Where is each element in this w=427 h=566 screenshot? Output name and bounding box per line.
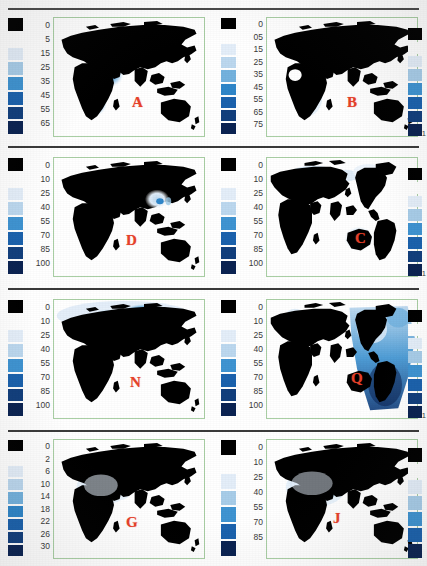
legend-swatches-C (221, 158, 236, 276)
legend-swatch (408, 310, 422, 322)
legend-tick: 70 (254, 228, 263, 242)
edge-legend-tick: 1 (422, 129, 426, 138)
edge-legend-row-1: 1 (408, 28, 426, 138)
legend-swatches-B (221, 18, 236, 136)
legend-tick: 0 (45, 300, 50, 314)
panel-label-A: A (132, 94, 143, 111)
legend-tick: 70 (254, 370, 263, 384)
edge-legend-row-4 (408, 448, 426, 560)
legend-tick: 10 (41, 314, 50, 328)
legend-swatch (221, 70, 236, 81)
row-separator-2 (8, 288, 419, 290)
legend-swatch (408, 97, 422, 109)
legend-tick: 70 (41, 228, 50, 242)
panel-G: 0 2 6 10 14 18 22 26 30 (0, 436, 213, 562)
legend-swatch (221, 217, 236, 230)
legend-swatch (8, 492, 23, 503)
legend-tick: 25 (254, 328, 263, 342)
legend-swatch (8, 545, 23, 556)
legend-swatch (8, 403, 23, 416)
legend-tick: 45 (254, 81, 263, 94)
legend-tick: 100 (36, 398, 50, 412)
legend-swatch (221, 315, 236, 328)
legend-swatch (408, 393, 422, 405)
legend-swatch (8, 389, 23, 402)
panel-label-N: N (130, 374, 141, 391)
legend-swatch (408, 448, 422, 462)
legend-swatch (408, 124, 422, 136)
legend-tick: 05 (254, 31, 263, 44)
legend-swatch (221, 389, 236, 402)
legend-swatch (221, 440, 236, 455)
legend-swatch (221, 110, 236, 121)
legend-tick: 55 (41, 214, 50, 228)
edge-legend-row-2: 1 (408, 168, 426, 278)
legend-tick: 0 (258, 300, 263, 314)
legend-swatch (8, 202, 23, 215)
legend-swatch (408, 528, 422, 542)
legend-tick: 0 (258, 18, 263, 31)
panel-row-3: 0 10 25 40 55 70 85 100 (0, 296, 427, 422)
legend-swatches-D (8, 158, 23, 276)
legend-swatches-G (8, 440, 23, 558)
legend-tick: 75 (254, 118, 263, 131)
legend-tick: 25 (41, 328, 50, 342)
legend-tick: 15 (254, 43, 263, 56)
panel-row-2: 0 10 25 40 55 70 85 100 (0, 154, 427, 280)
panel-label-G: G (126, 514, 138, 531)
map-C: C (266, 157, 418, 277)
legend-swatch (8, 121, 23, 134)
legend-tick: 55 (41, 102, 50, 116)
legend-labels-A: 0 5 15 25 35 45 55 65 (23, 18, 52, 136)
panel-label-Q: Q (351, 370, 363, 387)
legend-labels-D: 0 10 25 40 55 70 85 100 (23, 158, 52, 276)
legend-tick: 0 (258, 440, 263, 455)
legend-tick: 100 (249, 256, 263, 270)
legend-tick: 40 (254, 342, 263, 356)
legend-swatch (8, 188, 23, 201)
panel-C: 0 10 25 40 55 70 85 100 (213, 154, 426, 280)
map-A: A (53, 17, 205, 137)
legend-swatch (408, 351, 422, 363)
legend-tick: 65 (41, 116, 50, 130)
legend-N: 0 10 25 40 55 70 85 100 (8, 300, 52, 418)
legend-swatch (408, 324, 422, 336)
legend-swatch (408, 168, 422, 180)
legend-swatch (221, 188, 236, 201)
panel-A: 0 5 15 25 35 45 55 65 (0, 14, 213, 140)
legend-tick: 100 (249, 398, 263, 412)
legend-tick: 45 (41, 88, 50, 102)
legend-tick: 25 (41, 60, 50, 74)
legend-tick: 0 (45, 18, 50, 32)
legend-swatch (408, 379, 422, 391)
legend-swatch (221, 374, 236, 387)
legend-swatch (8, 519, 23, 530)
legend-labels-G: 0 2 6 10 14 18 22 26 30 (23, 440, 52, 558)
legend-swatch (221, 173, 236, 186)
legend-A: 0 5 15 25 35 45 55 65 (8, 18, 52, 136)
legend-swatch (221, 97, 236, 108)
figure-sheet: 0 5 15 25 35 45 55 65 (0, 0, 427, 566)
panel-label-B: B (347, 94, 357, 111)
legend-labels-J: 0 10 25 40 55 70 85 (236, 440, 265, 558)
legend-swatch (408, 496, 422, 510)
legend-labels-N: 0 10 25 40 55 70 85 100 (23, 300, 52, 418)
legend-swatch (221, 18, 236, 29)
legend-tick: 5 (45, 32, 50, 46)
legend-swatch (221, 31, 236, 42)
edge-legend-tick: 1 (422, 269, 426, 278)
legend-swatch (221, 541, 236, 556)
legend-tick: 0 (45, 440, 50, 453)
legend-swatch (408, 512, 422, 526)
panel-B: 0 05 15 25 35 45 55 65 75 (213, 14, 426, 140)
legend-swatch (8, 232, 23, 245)
legend-swatch (408, 42, 422, 54)
legend-swatch (8, 217, 23, 230)
legend-swatch (408, 365, 422, 377)
legend-tick: 85 (41, 242, 50, 256)
legend-tick: 10 (254, 455, 263, 470)
legend-swatch (8, 107, 23, 120)
legend-swatches-Q (221, 300, 236, 418)
legend-swatch (8, 374, 23, 387)
panel-label-D: D (126, 232, 137, 249)
